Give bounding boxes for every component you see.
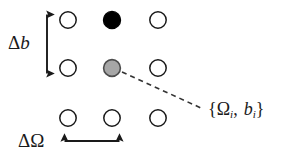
omega-symbol: Ω bbox=[217, 99, 230, 119]
lattice-node-open bbox=[150, 12, 166, 28]
omega-subscript: i bbox=[230, 108, 233, 120]
delta-symbol: Δ bbox=[8, 32, 20, 53]
lattice-node-highlighted bbox=[104, 60, 121, 77]
lattice-node-open bbox=[104, 110, 120, 126]
grid-diagram: Δb ΔΩ {Ωi, bi} bbox=[0, 0, 286, 156]
callout-leader-line bbox=[122, 72, 201, 108]
separator-comma: , bbox=[233, 99, 238, 119]
close-brace: } bbox=[256, 99, 265, 119]
lattice-node-open bbox=[150, 110, 166, 126]
delta-b-label: Δb bbox=[8, 33, 30, 52]
b-symbol: b bbox=[20, 32, 30, 53]
lattice-node-open bbox=[150, 60, 166, 76]
delta-omega-label: ΔΩ bbox=[18, 131, 44, 150]
lattice-node-open bbox=[60, 12, 76, 28]
b-symbol: b bbox=[244, 99, 253, 119]
lattice-node-open bbox=[60, 60, 76, 76]
b-subscript: i bbox=[253, 108, 256, 120]
lattice-nodes bbox=[60, 11, 166, 126]
omega-symbol: Ω bbox=[30, 130, 44, 151]
lattice-node-open bbox=[60, 110, 76, 126]
open-brace: { bbox=[208, 99, 217, 119]
lattice-node-filled bbox=[103, 11, 120, 28]
callout-label: {Ωi, bi} bbox=[208, 100, 264, 118]
delta-symbol: Δ bbox=[18, 130, 30, 151]
